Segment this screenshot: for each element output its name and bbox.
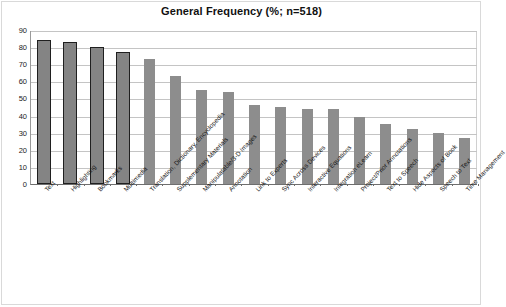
y-axis: 9080706050403020100 xyxy=(0,31,27,185)
x-tickmark xyxy=(136,184,137,186)
y-tick-label-50: 50 xyxy=(3,95,27,103)
x-tickmark xyxy=(425,184,426,186)
bar xyxy=(144,59,155,184)
bar xyxy=(37,40,51,184)
x-tickmark xyxy=(373,184,374,186)
x-tickmark xyxy=(268,184,269,186)
x-tickmark xyxy=(399,184,400,186)
y-tick-label-20: 20 xyxy=(3,147,27,155)
x-tickmark xyxy=(84,184,85,186)
y-tick-label-30: 30 xyxy=(3,130,27,138)
x-tickmark xyxy=(57,184,58,186)
x-tickmark xyxy=(320,184,321,186)
x-tickmark xyxy=(347,184,348,186)
y-tick-label-70: 70 xyxy=(3,61,27,69)
x-tickmark xyxy=(162,184,163,186)
y-tick-label-10: 10 xyxy=(3,164,27,172)
x-tickmark xyxy=(478,184,479,186)
x-axis-labels: TextHighlightingBookmarksMultimediaTrans… xyxy=(30,188,477,303)
y-tick-label-90: 90 xyxy=(3,27,27,35)
chart-title: General Frequency (%; n=518) xyxy=(0,5,483,17)
y-tick-label-60: 60 xyxy=(3,78,27,86)
x-tickmark xyxy=(189,184,190,186)
x-tickmark xyxy=(241,184,242,186)
y-tick-label-80: 80 xyxy=(3,44,27,52)
x-tickmark xyxy=(110,184,111,186)
x-tickmark xyxy=(452,184,453,186)
y-tick-label-0: 0 xyxy=(3,181,27,189)
y-tick-label-40: 40 xyxy=(3,113,27,121)
x-tickmark xyxy=(215,184,216,186)
bar xyxy=(63,42,77,184)
x-tickmark xyxy=(294,184,295,186)
bar xyxy=(354,117,365,184)
